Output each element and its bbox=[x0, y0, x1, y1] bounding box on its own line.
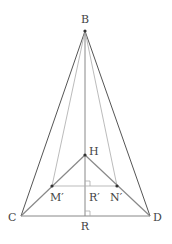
point-M-prime bbox=[50, 184, 53, 187]
label-N-prime: N′ bbox=[110, 191, 123, 204]
label-R-prime: R′ bbox=[89, 191, 100, 204]
pyramid-diagram: B H M′ N′ R′ C D R bbox=[0, 0, 172, 244]
label-C: C bbox=[8, 211, 16, 224]
label-D: D bbox=[153, 211, 162, 224]
label-R: R bbox=[81, 220, 90, 233]
label-B: B bbox=[81, 13, 89, 26]
point-H bbox=[83, 153, 86, 156]
point-N-prime bbox=[115, 184, 118, 187]
point-B bbox=[83, 29, 86, 32]
edge-BC bbox=[21, 31, 85, 216]
right-angle-mark-R-prime bbox=[85, 181, 90, 186]
label-H: H bbox=[89, 145, 99, 158]
edge-BM-prime bbox=[52, 31, 85, 186]
label-M-prime: M′ bbox=[50, 191, 64, 204]
right-angle-mark-R bbox=[85, 211, 90, 216]
edge-BD bbox=[85, 31, 150, 216]
